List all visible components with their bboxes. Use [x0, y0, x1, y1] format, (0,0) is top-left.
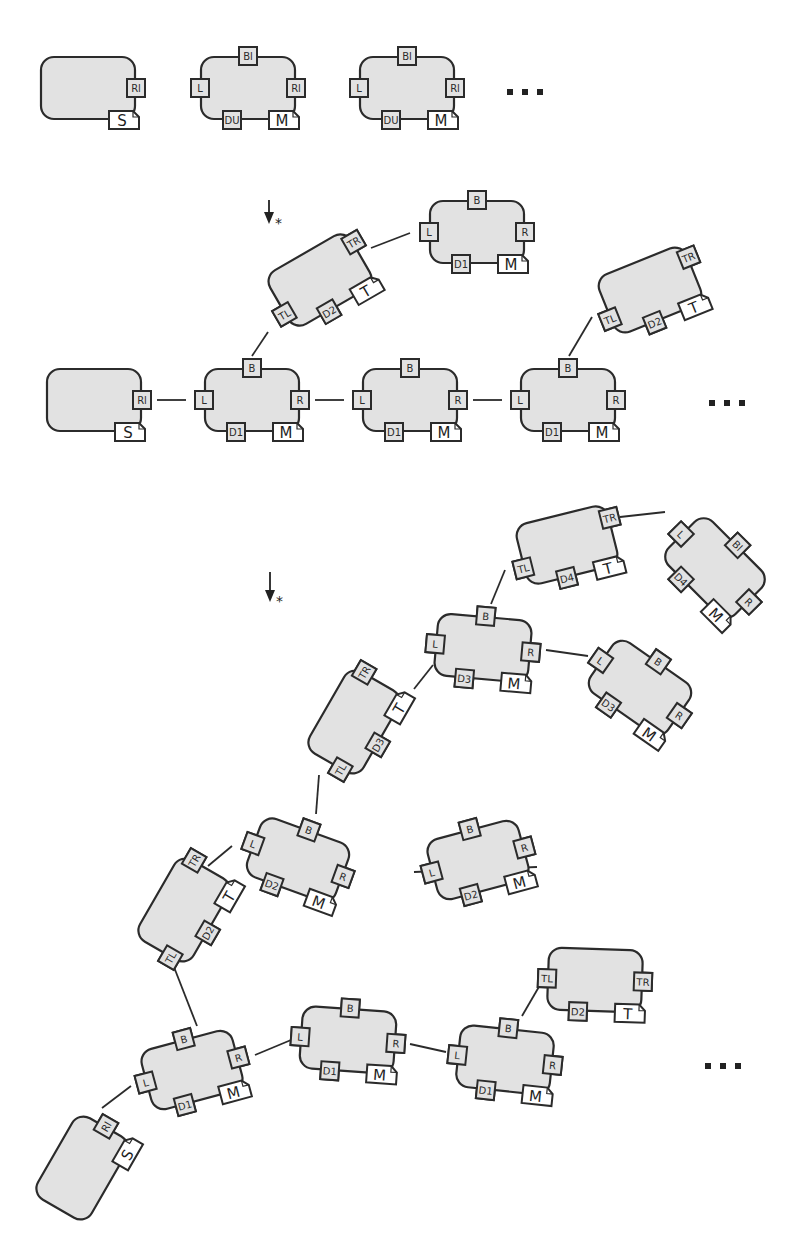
glue-label: L: [517, 395, 523, 406]
tile-body: [304, 666, 405, 778]
tile-body: [360, 57, 454, 119]
flag-label: T: [622, 1005, 634, 1023]
tile-body: [430, 201, 524, 263]
tile-body: [243, 815, 353, 905]
tiles-layer: RlSBlLRlDUMBlLRlDUMRlSBLRD1MBLRD1MBLRD1M…: [32, 47, 785, 1230]
glue-label: L: [426, 227, 432, 238]
tile-body: [201, 57, 295, 119]
stage-2-partial-assembly: RlSBLRD1MBLRD1MBLRD1MTLTRD2TBLRD1MTLTRD2…: [47, 191, 719, 442]
glue-label: Rl: [131, 83, 141, 94]
flag-label: M: [507, 674, 521, 693]
glue-bond-line: [620, 512, 665, 517]
tile: BLRD2M: [412, 806, 544, 916]
glue-label: D2: [571, 1006, 585, 1017]
glue-bond-line: [491, 570, 505, 604]
glue-bond-line: [410, 1044, 446, 1052]
glue-label: D1: [478, 1084, 493, 1096]
glue-label: DU: [383, 115, 398, 126]
ellipsis-dot: [522, 89, 528, 95]
tile-assembly-diagram: RlSBlLRlDUMBlLRlDUMRlSBLRD1MBLRD1MBLRD1M…: [0, 0, 798, 1251]
tile-body: [47, 369, 141, 431]
glue-label: D1: [545, 427, 559, 438]
tile: BLRD3M: [423, 602, 544, 695]
stage-1-tile-types: RlSBlLRlDUMBlLRlDUM: [41, 47, 464, 130]
glue-label: L: [356, 83, 362, 94]
seed-tile: RlS: [47, 369, 151, 442]
tile-body: [363, 369, 457, 431]
tile-body: [32, 1112, 133, 1224]
ellipsis-dot: [705, 1063, 711, 1069]
ellipsis-icon: [709, 400, 745, 406]
tile-body: [41, 57, 135, 119]
seed-tile: RlS: [41, 57, 145, 130]
flag-label: M: [596, 424, 609, 442]
tile: BLRD3M: [569, 622, 710, 755]
arrow-head-icon: [265, 590, 275, 602]
flag-label: M: [435, 112, 448, 130]
glue-label: TR: [635, 976, 649, 987]
flag-label: M: [505, 256, 518, 274]
flag-label: M: [528, 1087, 543, 1106]
glue-label: DU: [224, 115, 239, 126]
tile: BLRD1M: [444, 1013, 566, 1107]
glue-label: D1: [229, 427, 243, 438]
tile: BLRD1M: [126, 1016, 258, 1126]
glue-label: D3: [457, 673, 472, 685]
tile: BLRD1M: [511, 359, 625, 442]
tile-body: [521, 369, 615, 431]
glue-label: R: [549, 1060, 557, 1072]
flag-label: M: [280, 424, 293, 442]
seed-tile: RlS: [32, 1103, 147, 1230]
glue-bond-line: [522, 985, 540, 1016]
glue-label: R: [527, 647, 535, 659]
glue-label: B: [565, 363, 572, 374]
tile: TLTRD2T: [537, 947, 653, 1024]
flag-label: M: [276, 112, 289, 130]
glue-label: L: [201, 395, 207, 406]
ellipsis-dot: [739, 400, 745, 406]
glue-bond-line: [102, 1086, 131, 1108]
glue-label: B: [474, 195, 481, 206]
tile: BLRD2M: [230, 802, 366, 919]
tile: BlLRlDUM: [350, 47, 464, 130]
ellipsis-dot: [507, 89, 513, 95]
ellipsis-dot: [735, 1063, 741, 1069]
tile: BLRD1M: [353, 359, 467, 442]
tile: TLTRD2T: [586, 240, 719, 350]
glue-bond-line: [316, 775, 319, 814]
tile: TLTRD2T: [255, 225, 390, 345]
glue-label: D1: [387, 427, 401, 438]
tile: TLTRD3T: [299, 657, 419, 792]
glue-bond-line: [172, 962, 197, 1026]
tile-body: [547, 947, 643, 1012]
glue-label: B: [504, 1023, 512, 1035]
ellipsis-icon: [705, 1063, 741, 1069]
tile-body: [205, 369, 299, 431]
tile: BlLRD4M: [645, 499, 784, 638]
glue-label: R: [522, 227, 529, 238]
glue-bond-line: [255, 1040, 291, 1055]
glue-label: D1: [322, 1065, 337, 1077]
glue-label: TL: [540, 973, 553, 984]
glue-bond-line: [371, 233, 410, 248]
glue-bond-line: [569, 317, 592, 356]
flag-label: M: [373, 1066, 387, 1085]
glue-bond-line: [208, 846, 232, 866]
flag-label: M: [438, 424, 451, 442]
ellipsis-dot: [537, 89, 543, 95]
tile: BlLRlDUM: [191, 47, 305, 130]
stage-3-full-assembly: RlSBLRD1MBLRD1MBLRD1MTLTRD2TTLTRD2TBLRD2…: [32, 499, 785, 1230]
flag-label: S: [117, 112, 127, 130]
glue-label: Rl: [450, 83, 460, 94]
glue-label: Bl: [402, 51, 412, 62]
glue-label: B: [482, 611, 490, 623]
arrow-head-icon: [264, 212, 274, 224]
tile: BLRD1M: [420, 191, 534, 274]
glue-label: D1: [454, 259, 468, 270]
glue-label: Rl: [291, 83, 301, 94]
tile: BLRD1M: [195, 359, 309, 442]
glue-label: Bl: [243, 51, 253, 62]
tile: TLTRD2T: [129, 845, 249, 980]
derivation-arrow: *: [265, 572, 283, 609]
glue-label: Rl: [137, 395, 147, 406]
